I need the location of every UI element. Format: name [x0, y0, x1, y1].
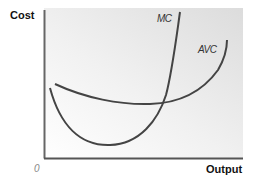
- avc-label: AVC: [198, 44, 217, 55]
- cost-curves-chart: [0, 0, 254, 183]
- origin-label: 0: [34, 163, 40, 174]
- y-axis-label: Cost: [10, 9, 34, 21]
- mc-curve: [50, 12, 180, 145]
- mc-label: MC: [157, 13, 172, 24]
- x-axis-label: Output: [206, 163, 242, 175]
